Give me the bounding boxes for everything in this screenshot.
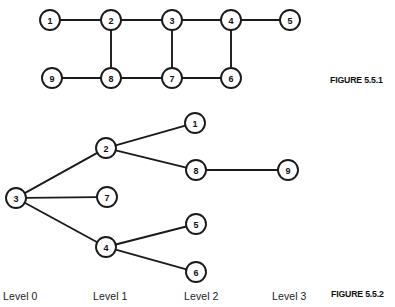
node-label-7: 7 bbox=[169, 74, 174, 84]
graph-diagrams-canvas: 123459876 327418569 bbox=[0, 0, 395, 307]
graph-node-8[interactable]: 8 bbox=[186, 160, 206, 180]
node-label-9: 9 bbox=[285, 166, 290, 176]
graph-node-6[interactable]: 6 bbox=[221, 68, 241, 88]
graph-node-3[interactable]: 3 bbox=[6, 188, 26, 208]
node-label-6: 6 bbox=[193, 268, 198, 278]
node-label-4: 4 bbox=[228, 16, 233, 26]
level-label-1: Level 1 bbox=[93, 290, 128, 302]
node-label-5: 5 bbox=[287, 16, 292, 26]
figure-1-caption: FIGURE 5.5.1 bbox=[330, 74, 383, 85]
figure-2-caption: FIGURE 5.5.2 bbox=[331, 288, 384, 299]
node-label-3: 3 bbox=[169, 16, 174, 26]
graph-node-2[interactable]: 2 bbox=[101, 10, 121, 30]
graph-edge-3-2 bbox=[25, 153, 98, 193]
graph-node-9[interactable]: 9 bbox=[42, 68, 62, 88]
node-label-8: 8 bbox=[108, 74, 113, 84]
graph-node-1[interactable]: 1 bbox=[40, 10, 60, 30]
graph-node-2[interactable]: 2 bbox=[96, 138, 116, 158]
graph-node-7[interactable]: 7 bbox=[97, 187, 117, 207]
node-label-2: 2 bbox=[103, 144, 108, 154]
node-label-6: 6 bbox=[228, 74, 233, 84]
graph-node-5[interactable]: 5 bbox=[280, 10, 300, 30]
node-label-3: 3 bbox=[13, 194, 18, 204]
graph-node-6[interactable]: 6 bbox=[186, 262, 206, 282]
node-label-9: 9 bbox=[49, 74, 54, 84]
graph-node-8[interactable]: 8 bbox=[101, 68, 121, 88]
level-label-0: Level 0 bbox=[3, 290, 38, 302]
figure2-edge-group bbox=[25, 126, 278, 270]
graph-edge-3-7 bbox=[26, 197, 97, 198]
node-label-5: 5 bbox=[193, 220, 198, 230]
graph-edge-2-1 bbox=[116, 126, 186, 146]
level-label-2: Level 2 bbox=[184, 290, 219, 302]
graph-node-9[interactable]: 9 bbox=[278, 160, 298, 180]
node-label-1: 1 bbox=[192, 119, 197, 129]
level-label-3: Level 3 bbox=[272, 290, 307, 302]
graph-node-3[interactable]: 3 bbox=[162, 10, 182, 30]
graph-edge-4-6 bbox=[116, 250, 187, 270]
node-label-1: 1 bbox=[47, 16, 52, 26]
node-label-2: 2 bbox=[108, 16, 113, 26]
figure-page: 123459876 327418569 Level 0Level 1Level … bbox=[0, 0, 395, 307]
graph-node-4[interactable]: 4 bbox=[96, 237, 116, 257]
node-label-8: 8 bbox=[193, 166, 198, 176]
graph-node-4[interactable]: 4 bbox=[221, 10, 241, 30]
node-label-4: 4 bbox=[103, 243, 108, 253]
graph-node-7[interactable]: 7 bbox=[162, 68, 182, 88]
figure1-node-group: 123459876 bbox=[40, 10, 300, 88]
graph-edge-3-4 bbox=[25, 203, 97, 242]
node-label-7: 7 bbox=[104, 193, 109, 203]
graph-edge-2-8 bbox=[116, 150, 187, 167]
graph-node-5[interactable]: 5 bbox=[186, 214, 206, 234]
graph-edge-4-5 bbox=[116, 226, 187, 244]
graph-node-1[interactable]: 1 bbox=[185, 113, 205, 133]
